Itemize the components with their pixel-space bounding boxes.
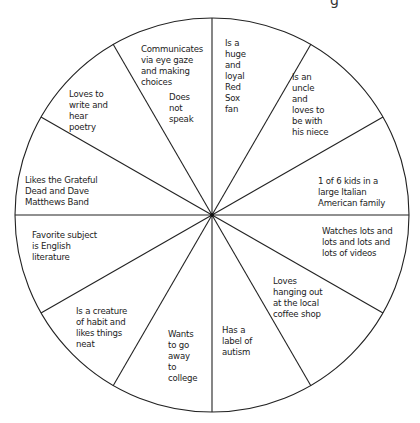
wheel-center <box>210 213 214 217</box>
slice-english: Favorite subject is English literature <box>32 230 97 263</box>
slice-poetry: Loves to write and hear poetry <box>69 89 108 133</box>
slice-college: Wants to go away to college <box>168 329 197 384</box>
slice-autism: Has a label of autism <box>222 325 252 358</box>
slice-coffee-shop: Loves hanging out at the local coffee sh… <box>273 276 323 320</box>
corner-text-fragment: g <box>330 0 339 8</box>
wheel-diagram <box>0 0 420 423</box>
slice-does-not-speak: Does not speak <box>169 92 193 125</box>
slice-videos: Watches lots and lots and lots and lots … <box>322 226 392 259</box>
slice-habit: Is a creature of habit and likes things … <box>76 306 127 350</box>
slice-grateful-dead: Likes the Grateful Dead and Dave Matthew… <box>25 175 98 208</box>
slice-uncle: Is an uncle and loves to be with his nie… <box>292 72 328 138</box>
slice-communicates: Communicates via eye gaze and making cho… <box>141 44 203 88</box>
slice-red-sox: Is a huge and loyal Red Sox fan <box>225 38 246 115</box>
slice-italian-family: 1 of 6 kids in a large Italian American … <box>318 176 385 209</box>
